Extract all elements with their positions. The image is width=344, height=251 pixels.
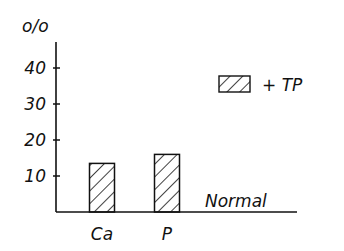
x-tick-label: Ca: [91, 224, 113, 244]
y-tick-label: 10: [24, 166, 46, 186]
x-tick-label: P: [162, 224, 173, 244]
bar-chart: o/o 10203040 CaP Normal + TP: [0, 0, 344, 251]
y-tick-label: 30: [24, 94, 46, 114]
y-tick-label: 40: [24, 58, 46, 78]
y-tick-label: 20: [24, 130, 46, 150]
bar-ca: [90, 163, 115, 212]
bar-p: [155, 154, 180, 212]
legend-label: + TP: [262, 75, 303, 95]
baseline-label-normal: Normal: [205, 191, 267, 211]
y-axis-label: o/o: [22, 16, 49, 36]
legend-swatch: [219, 76, 250, 92]
